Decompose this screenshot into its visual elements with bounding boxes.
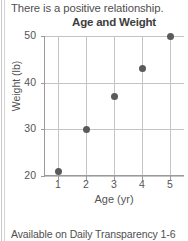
footer-note: Available on Daily Transparency 1-6 (11, 228, 175, 240)
x-axis-label: Age (yr) (44, 193, 184, 205)
data-point (139, 65, 146, 72)
y-tick-mark (41, 36, 45, 37)
x-tick-label: 5 (160, 178, 180, 190)
y-tick-label: 20 (0, 169, 36, 181)
chart-title: Age and Weight (44, 16, 184, 28)
data-point (167, 33, 174, 40)
y-tick-mark (41, 83, 45, 84)
x-tick-label: 4 (132, 178, 152, 190)
y-tick-mark (41, 129, 45, 130)
scatter-chart: Age and Weight 20304050 12345 Weight (lb… (0, 0, 188, 241)
data-point (111, 93, 118, 100)
y-axis-label: Weight (lb) (10, 46, 22, 126)
x-tick-label: 1 (48, 178, 68, 190)
data-point (55, 168, 62, 175)
data-point (83, 126, 90, 133)
plot-frame (44, 36, 184, 176)
y-tick-mark (41, 176, 45, 177)
x-tick-label: 2 (76, 178, 96, 190)
x-tick-label: 3 (104, 178, 124, 190)
y-tick-label: 50 (0, 29, 36, 41)
